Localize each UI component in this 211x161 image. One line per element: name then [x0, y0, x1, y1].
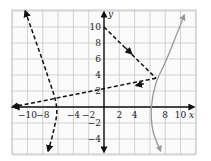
y-tick-label: −4 — [88, 134, 102, 144]
x-tick-label: 10 — [175, 110, 187, 120]
x-tick-label: 2 — [116, 110, 122, 120]
x-tick-label: 8 — [162, 110, 168, 120]
coordinate-plane: −10−8−4−224810108642−2−4 x y — [0, 0, 211, 161]
y-tick-label: 8 — [95, 38, 101, 48]
x-tick-label: 4 — [132, 110, 138, 120]
y-axis-label: y — [107, 9, 114, 19]
x-tick-label: −10 — [18, 110, 37, 120]
x-tick-label: −8 — [36, 110, 50, 120]
y-tick-label: −2 — [88, 118, 101, 128]
x-axis-label: x — [189, 110, 194, 120]
y-tick-label: 6 — [95, 54, 101, 64]
y-tick-label: 10 — [90, 22, 102, 32]
x-tick-label: −4 — [67, 110, 81, 120]
y-tick-label: 4 — [95, 70, 101, 80]
y-tick-label: 2 — [95, 86, 101, 96]
